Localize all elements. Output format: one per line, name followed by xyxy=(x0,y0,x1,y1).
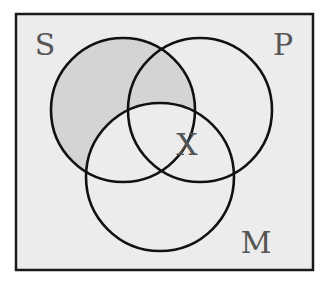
marker-x: X xyxy=(176,127,198,162)
label-p: P xyxy=(273,27,293,62)
venn-diagram: S P M X xyxy=(0,0,323,284)
label-s: S xyxy=(35,27,56,62)
label-m: M xyxy=(241,225,272,260)
